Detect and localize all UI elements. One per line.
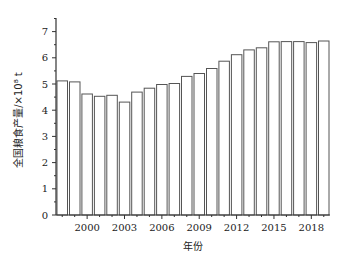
x-axis-title: 年份: [183, 240, 203, 252]
y-tick-label: 2: [42, 157, 48, 168]
bar-2012: [231, 55, 242, 215]
y-tick-label: 3: [42, 131, 48, 142]
y-tick-label: 5: [42, 79, 48, 90]
x-tick-label: 2006: [149, 222, 174, 233]
y-tick-label: 7: [42, 26, 48, 37]
bar-2004: [132, 92, 143, 215]
x-tick-label: 2000: [74, 222, 99, 233]
bar-2017: [294, 42, 305, 215]
bar-2018: [306, 43, 317, 215]
bar-1999: [70, 82, 81, 215]
bar-2010: [207, 69, 218, 216]
x-tick-label: 2009: [187, 222, 212, 233]
bar-2011: [219, 61, 230, 215]
bar-2000: [82, 94, 93, 215]
x-tick-label: 2018: [299, 222, 324, 233]
bar-2014: [256, 48, 267, 215]
bar-2006: [157, 85, 168, 216]
bar-2013: [244, 50, 255, 215]
y-tick-label: 4: [42, 105, 48, 116]
x-tick-label: 2003: [112, 222, 137, 233]
bar-2019: [319, 41, 330, 215]
bar-2016: [281, 42, 292, 215]
bar-2001: [94, 96, 105, 215]
y-tick-label: 1: [42, 183, 48, 194]
y-tick-label: 6: [42, 52, 48, 63]
bar-2002: [107, 95, 118, 215]
bar-2008: [182, 76, 193, 215]
bar-2015: [269, 42, 280, 215]
x-tick-label: 2012: [224, 222, 249, 233]
bar-2003: [119, 102, 130, 215]
bar-2005: [144, 88, 155, 215]
bar-chart: 012345672000200320062009201220152018 年份 …: [0, 0, 337, 270]
y-axis-title: 全国粮食产量/×10⁸ t: [12, 72, 24, 168]
bar-2007: [169, 84, 180, 216]
bar-2009: [194, 74, 205, 216]
y-tick-label: 0: [42, 210, 48, 221]
x-tick-label: 2015: [261, 222, 286, 233]
bar-1998: [57, 81, 68, 215]
bars: [57, 41, 329, 215]
